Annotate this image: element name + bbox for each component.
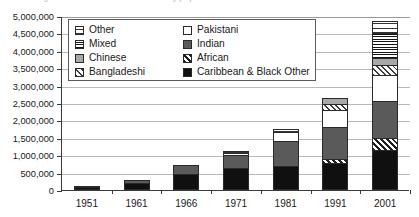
bar-segment-caribbean-black-other <box>273 166 299 190</box>
bar-1981[interactable] <box>273 129 299 190</box>
legend-item-pakistani[interactable]: Pakistani <box>183 23 310 37</box>
bar-segment-african <box>322 159 348 164</box>
x-axis-label-1951: 1951 <box>76 198 98 209</box>
bar-segment-mixed <box>372 33 398 57</box>
bar-1961[interactable] <box>124 180 150 190</box>
x-axis-label-1961: 1961 <box>125 198 147 209</box>
bar-segment-pakistani <box>372 75 398 101</box>
y-axis-tick <box>57 174 62 175</box>
legend-swatch-bangladeshi <box>75 68 84 77</box>
y-axis-tick <box>57 52 62 53</box>
bar-segment-caribbean-black-other <box>74 187 100 190</box>
y-axis-label: 2,500,000 <box>13 99 54 109</box>
x-axis-label-2001: 2001 <box>374 198 396 209</box>
bar-segment-caribbean-black-other <box>173 174 199 190</box>
gridline <box>62 139 410 140</box>
bar-segment-chinese <box>372 58 398 65</box>
y-axis-tick <box>57 87 62 88</box>
legend-item-chinese[interactable]: Chinese <box>75 51 183 65</box>
gridline <box>62 121 410 122</box>
legend-item-caribbean-black-other[interactable]: Caribbean & Black Other <box>183 65 310 79</box>
y-axis-tick <box>57 139 62 140</box>
legend-label: Indian <box>197 37 225 51</box>
legend-swatch-other <box>75 26 84 35</box>
x-axis-label-1991: 1991 <box>324 198 346 209</box>
x-axis-tick <box>211 190 212 194</box>
gridline <box>62 87 410 88</box>
bar-segment-other <box>223 151 249 152</box>
y-axis-tick <box>57 17 62 18</box>
bar-segment-indian <box>223 155 249 169</box>
bar-1991[interactable] <box>322 98 348 190</box>
y-axis-label: 5,000,000 <box>13 12 54 22</box>
bar-1971[interactable] <box>223 151 249 190</box>
y-axis-label: 1,500,000 <box>13 134 54 144</box>
legend-item-indian[interactable]: Indian <box>183 37 310 51</box>
bar-segment-indian <box>273 141 299 165</box>
y-axis-tick <box>57 104 62 105</box>
x-axis-tick <box>261 190 262 194</box>
x-axis-label-1971: 1971 <box>225 198 247 209</box>
legend-label: Bangladeshi <box>89 65 145 79</box>
bar-1951[interactable] <box>74 186 100 190</box>
bar-segment-indian <box>74 186 100 187</box>
y-axis-tick <box>57 121 62 122</box>
legend-label: Mixed <box>89 37 116 51</box>
y-axis-label: 3,000,000 <box>13 82 54 92</box>
legend-label: Other <box>89 23 114 37</box>
legend-item-bangladeshi[interactable]: Bangladeshi <box>75 65 183 79</box>
legend-swatch-chinese <box>75 54 84 63</box>
bar-segment-pakistani <box>273 132 299 141</box>
chart-legend: OtherPakistaniMixedIndianChineseAfricanB… <box>68 19 316 81</box>
legend-item-african[interactable]: African <box>183 51 310 65</box>
x-axis-tick <box>410 190 411 194</box>
y-axis-label: 2,000,000 <box>13 116 54 126</box>
bar-segment-bangladeshi <box>372 65 398 75</box>
y-axis-label: 4,000,000 <box>13 47 54 57</box>
stacked-bar-chart: 5,000,0004,500,0004,000,0003,500,0003,00… <box>0 0 419 217</box>
legend-label: Chinese <box>89 51 126 65</box>
x-axis-tick <box>360 190 361 194</box>
bar-segment-african <box>372 138 398 150</box>
legend-item-mixed[interactable]: Mixed <box>75 37 183 51</box>
x-axis-tick <box>161 190 162 194</box>
x-axis-tick <box>311 190 312 194</box>
legend-label: Pakistani <box>197 23 238 37</box>
bar-segment-indian <box>372 101 398 138</box>
legend-swatch-african <box>183 54 192 63</box>
bar-segment-caribbean-black-other <box>322 163 348 190</box>
y-axis-tick <box>57 191 62 192</box>
y-axis-label: 4,500,000 <box>13 29 54 39</box>
y-axis-tick <box>57 34 62 35</box>
bar-segment-bangladeshi <box>322 104 348 110</box>
bar-segment-indian <box>173 165 199 173</box>
bar-segment-indian <box>124 180 150 183</box>
y-axis-tick <box>57 69 62 70</box>
legend-swatch-pakistani <box>183 26 192 35</box>
bar-segment-other <box>273 129 299 132</box>
bar-1966[interactable] <box>173 165 199 190</box>
legend-label: African <box>197 51 229 65</box>
legend-item-other[interactable]: Other <box>75 23 183 37</box>
x-axis-label-1966: 1966 <box>175 198 197 209</box>
bar-segment-indian <box>322 127 348 158</box>
y-axis-label: 0 <box>49 186 54 196</box>
bar-2001[interactable] <box>372 21 398 190</box>
bar-segment-caribbean-black-other <box>372 150 398 190</box>
bar-segment-caribbean-black-other <box>223 168 249 190</box>
gridline <box>62 104 410 105</box>
legend-swatch-caribbean-black-other <box>183 68 192 77</box>
bar-segment-chinese <box>322 98 348 104</box>
y-axis-tick <box>57 156 62 157</box>
y-axis-label: 3,500,000 <box>13 64 54 74</box>
legend-swatch-mixed <box>75 40 84 49</box>
y-axis-label: 500,000 <box>20 169 54 179</box>
x-axis-label-1981: 1981 <box>275 198 297 209</box>
gridline <box>62 17 410 18</box>
bar-segment-pakistani <box>322 110 348 128</box>
legend-label: Caribbean & Black Other <box>197 65 310 79</box>
y-axis-label: 1,000,000 <box>13 151 54 161</box>
bar-segment-pakistani <box>223 153 249 155</box>
x-axis-tick <box>112 190 113 194</box>
bar-segment-caribbean-black-other <box>124 183 150 190</box>
